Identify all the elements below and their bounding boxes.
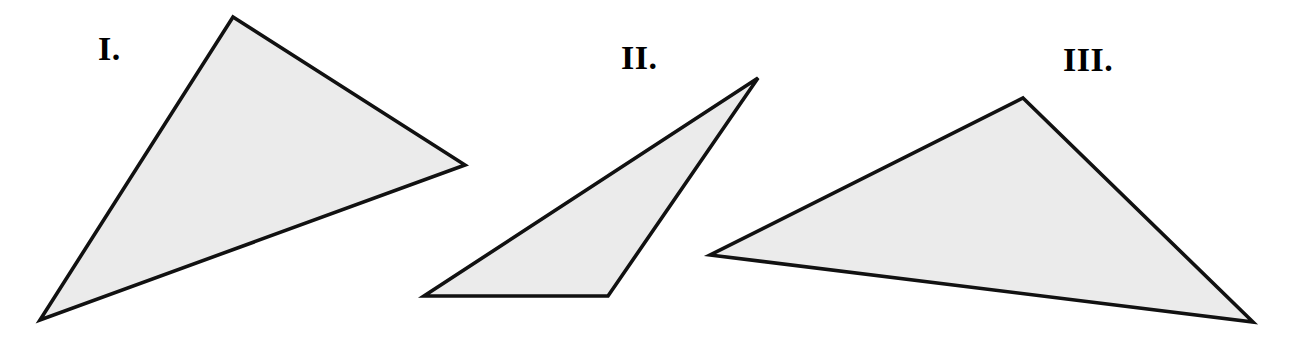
triangle-2-shape xyxy=(424,78,758,296)
triangles-figure: I. II. III. xyxy=(0,0,1291,345)
triangle-2-label: II. xyxy=(621,41,657,75)
triangle-1-label: I. xyxy=(98,32,121,66)
triangle-3-shape xyxy=(710,98,1253,322)
triangle-3-label: III. xyxy=(1063,43,1113,77)
